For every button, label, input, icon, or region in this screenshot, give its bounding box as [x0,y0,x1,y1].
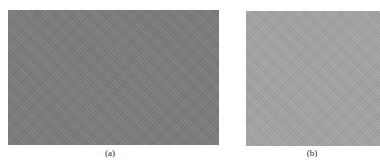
panel-a-caption-label: (a) [95,148,125,158]
figure-panel-b-image [246,11,380,146]
figure-panel-a-image [8,10,219,145]
panel-b-caption-label: (b) [297,148,327,158]
